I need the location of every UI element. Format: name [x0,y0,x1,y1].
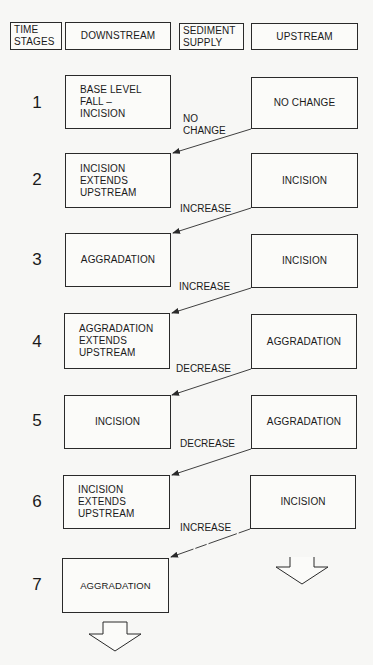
diagonal-arrow-icon-4 [172,369,251,395]
flow-arrows-layer [0,0,373,665]
diagonal-arrow-icon-3 [172,288,251,313]
diagonal-arrow-icon-2 [173,208,251,233]
diagonal-arrow-icon-5 [172,449,251,475]
diagonal-arrow-icon-1 [173,129,251,153]
hollow-down-arrow-icon-downstream [89,622,141,651]
diagonal-arrow-icon-6 [171,529,250,557]
hollow-down-arrow-icon-upstream [276,557,328,584]
